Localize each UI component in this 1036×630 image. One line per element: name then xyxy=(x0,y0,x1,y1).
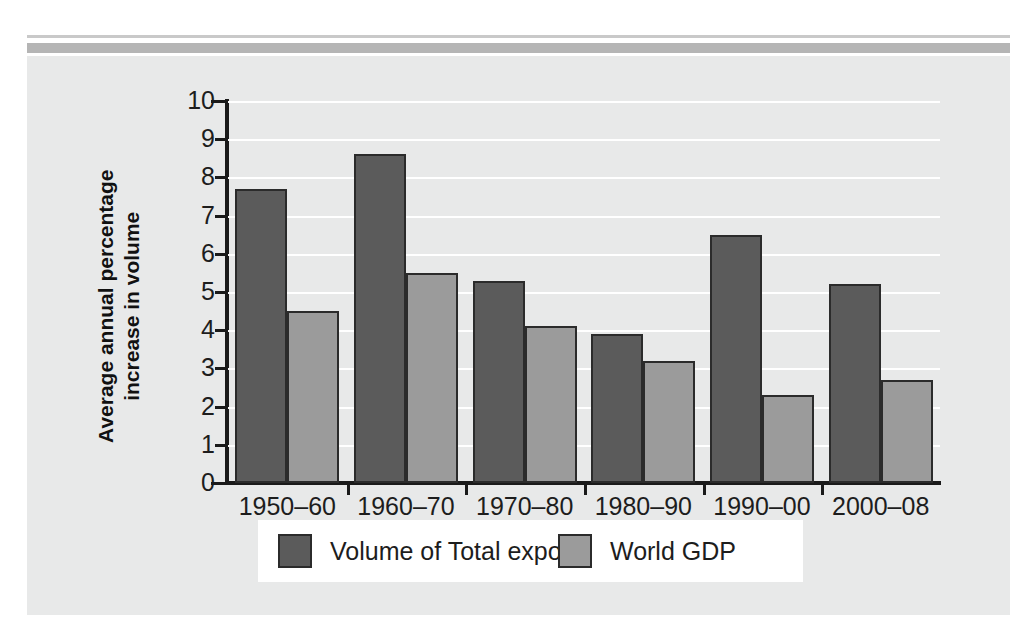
gridline xyxy=(228,254,940,256)
gridline xyxy=(228,101,940,103)
legend-swatch xyxy=(278,534,312,568)
y-axis-tick-label: 0 xyxy=(169,470,215,495)
bar xyxy=(710,235,762,483)
bar xyxy=(762,395,814,483)
x-axis-category-label: 1990–00 xyxy=(703,492,822,521)
chart-legend: Volume of Total exportsWorld GDP xyxy=(258,520,803,582)
y-axis-tick xyxy=(215,406,227,409)
y-axis-tick-label: 8 xyxy=(169,164,215,189)
bar xyxy=(643,361,695,483)
y-axis-tick xyxy=(215,176,227,179)
x-axis-category-label: 1950–60 xyxy=(228,492,347,521)
x-axis-category-label: 1970–80 xyxy=(465,492,584,521)
y-axis-tick xyxy=(215,215,227,218)
x-axis-tick xyxy=(821,481,824,495)
bar xyxy=(881,380,933,483)
legend-entry: World GDP xyxy=(558,534,736,568)
bar xyxy=(473,281,525,483)
y-axis-tick xyxy=(215,138,227,141)
x-axis-tick xyxy=(703,481,706,495)
x-axis-category-label: 1960–70 xyxy=(347,492,466,521)
x-axis-tick xyxy=(584,481,587,495)
x-axis-category-label: 1980–90 xyxy=(584,492,703,521)
y-axis-title-line2: increase in volume xyxy=(120,212,143,401)
bar xyxy=(591,334,643,483)
legend-swatch xyxy=(558,534,592,568)
bar xyxy=(354,154,406,483)
y-axis-tick xyxy=(215,367,227,370)
y-axis-tick-label: 1 xyxy=(169,432,215,457)
plot-area xyxy=(228,101,940,483)
y-axis-tick xyxy=(215,253,227,256)
y-axis-tick xyxy=(211,100,228,103)
y-axis-tick-label: 2 xyxy=(169,394,215,419)
x-axis-category-label: 2000–08 xyxy=(821,492,940,521)
bar xyxy=(406,273,458,483)
legend-label: World GDP xyxy=(610,537,736,566)
y-axis-title-line1: Average annual percentage xyxy=(94,170,117,444)
legend-label: Volume of Total exports xyxy=(330,537,589,566)
y-axis-tick-label: 9 xyxy=(169,126,215,151)
y-axis-tick-label: 6 xyxy=(169,241,215,266)
x-axis-tick xyxy=(465,481,468,495)
y-axis-tick-label: 5 xyxy=(169,279,215,304)
y-axis-tick xyxy=(211,482,228,485)
y-axis-tick-label: 10 xyxy=(169,88,215,113)
bar xyxy=(525,326,577,483)
y-axis-tick xyxy=(215,329,227,332)
gridline xyxy=(228,216,940,218)
y-axis-tick-label: 4 xyxy=(169,317,215,342)
y-axis-tick-label: 7 xyxy=(169,203,215,228)
y-axis-tick-label: 3 xyxy=(169,355,215,380)
gridline xyxy=(228,139,940,141)
bar xyxy=(829,284,881,483)
x-axis-tick xyxy=(347,481,350,495)
y-axis-tick-labels: 012345678910 xyxy=(155,0,215,630)
bar xyxy=(287,311,339,483)
gridline xyxy=(228,177,940,179)
y-axis-tick xyxy=(215,291,227,294)
legend-entry: Volume of Total exports xyxy=(278,534,589,568)
bar xyxy=(235,189,287,483)
y-axis-tick xyxy=(215,444,227,447)
